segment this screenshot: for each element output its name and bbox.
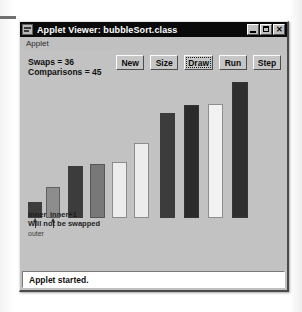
bar-6 <box>160 113 175 218</box>
annotation-inner: inner <box>28 210 46 219</box>
annotation-outer: outer <box>28 229 44 238</box>
bar-chart <box>20 50 287 272</box>
applet-viewer-icon <box>22 24 33 35</box>
page-edge-artifact <box>0 16 16 19</box>
maximize-button[interactable] <box>260 24 272 35</box>
minimize-button[interactable] <box>247 24 259 35</box>
menu-item-applet[interactable]: Applet <box>24 39 51 48</box>
page-shade-left <box>0 0 14 312</box>
window-title: Applet Viewer: bubbleSort.class <box>37 25 247 35</box>
status-text: Applet started. <box>29 275 89 285</box>
annotation-message: Will not be swapped <box>28 219 100 228</box>
bar-8 <box>208 104 223 218</box>
applet-canvas: Swaps = 36 Comparisons = 45 New Size Dra… <box>20 50 287 272</box>
close-button[interactable]: ✕ <box>273 24 285 35</box>
window-controls: ✕ <box>247 24 285 35</box>
bar-7 <box>184 105 199 218</box>
menu-bar: Applet <box>20 37 287 50</box>
bar-9 <box>232 82 248 218</box>
bar-4 <box>112 162 127 218</box>
status-bar: Applet started. <box>22 271 285 288</box>
applet-viewer-window: Applet Viewer: bubbleSort.class ✕ Applet… <box>19 21 289 292</box>
title-bar[interactable]: Applet Viewer: bubbleSort.class ✕ <box>20 22 287 37</box>
annotation-inner-plus-one: inner+1 <box>50 210 77 219</box>
page-shade-right <box>290 0 302 312</box>
bar-5 <box>134 143 149 218</box>
bar-3 <box>90 164 105 218</box>
